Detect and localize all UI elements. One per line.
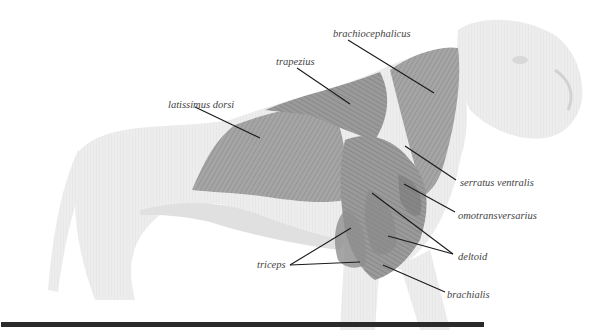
- muscle-latissimus-dorsi: [192, 108, 347, 202]
- label-brachialis: brachialis: [447, 290, 490, 301]
- dog-muscle-illustration: [0, 0, 592, 334]
- label-triceps: triceps: [257, 260, 286, 271]
- label-trapezius: trapezius: [276, 57, 315, 68]
- label-deltoid: deltoid: [458, 252, 487, 263]
- label-serratus-ventralis: serratus ventralis: [460, 178, 534, 189]
- bottom-rule: [1, 322, 484, 327]
- label-latissimus-dorsi: latissimus dorsi: [168, 100, 234, 111]
- label-brachiocephalicus: brachiocephalicus: [333, 29, 411, 40]
- anatomy-figure: latissimus dorsi trapezius brachiocephal…: [0, 0, 592, 334]
- label-omotransversarius: omotransversarius: [458, 211, 537, 222]
